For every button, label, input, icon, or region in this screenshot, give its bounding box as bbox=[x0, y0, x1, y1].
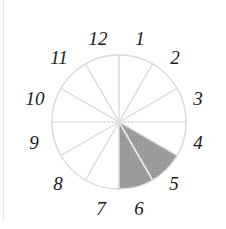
label-12: 12 bbox=[89, 28, 109, 49]
clock-diagram: 12 1 2 3 4 5 6 7 8 9 10 11 bbox=[0, 0, 226, 229]
label-7: 7 bbox=[96, 198, 107, 219]
label-8: 8 bbox=[53, 173, 63, 194]
label-6: 6 bbox=[134, 198, 144, 219]
label-11: 11 bbox=[50, 47, 68, 68]
label-2: 2 bbox=[170, 47, 180, 68]
label-10: 10 bbox=[26, 88, 46, 109]
label-3: 3 bbox=[192, 88, 203, 109]
label-5: 5 bbox=[169, 173, 179, 194]
label-4: 4 bbox=[193, 132, 203, 153]
label-9: 9 bbox=[29, 132, 39, 153]
clock-center bbox=[117, 120, 122, 125]
label-1: 1 bbox=[135, 28, 145, 49]
